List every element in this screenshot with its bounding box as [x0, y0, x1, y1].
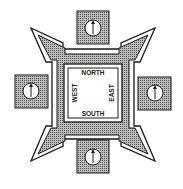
- west-label: WEST: [71, 84, 78, 103]
- compass-panel-top: [77, 11, 109, 44]
- compass-panel-bottom: [77, 140, 109, 173]
- compass-panel-left: [15, 75, 48, 108]
- east-label: EAST: [108, 84, 115, 101]
- fortress-diagram: NORTH SOUTH WEST EAST: [0, 0, 183, 189]
- north-label: NORTH: [81, 69, 104, 76]
- south-label: SOUTH: [82, 110, 105, 117]
- compass-panel-right: [138, 77, 171, 110]
